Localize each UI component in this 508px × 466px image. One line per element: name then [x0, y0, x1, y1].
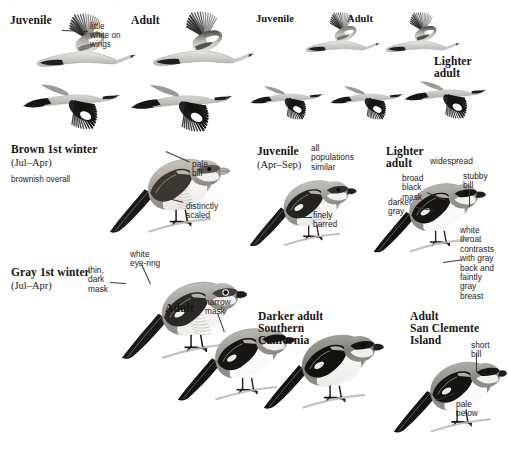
flight-bird-juvenile-lower-left [22, 76, 127, 133]
annotation-darker-gray: darker gray [388, 198, 412, 217]
header-adult: Adult [347, 13, 373, 24]
header-lighter-adult: Lighter adult [386, 145, 424, 169]
header-juvenile: Juvenile [256, 13, 294, 24]
header-adult-san-clemente-island: Adult San Clemente Island [410, 310, 479, 347]
annotation-thin-dark-mask: thin, dark mask [88, 266, 108, 294]
annotation-widespread: widespread [430, 157, 473, 166]
leader-line-short-bill [476, 354, 477, 372]
leader-line-thin-dark-mask [110, 282, 126, 284]
header-darker-adult-southern-california: Darker adult Southern California [258, 310, 323, 347]
sub-apr-sep: (Apr–Sep) [257, 159, 301, 170]
header-adult: Adult [131, 14, 160, 26]
header-juvenile: Juvenile [257, 145, 299, 157]
annotation-white-eye-ring: white eye-ring [130, 250, 160, 269]
annotation-distinctly-scaled: distinctly scaled [186, 202, 218, 221]
flight-bird-lighter-adult-lower-right [404, 74, 492, 122]
header-brown-1st-winter: Brown 1st winter [11, 143, 97, 155]
clipped-text-row: . . . . . [6, 0, 116, 7]
header-adult: Adult [165, 302, 194, 314]
flight-bird-adult-lower-right [330, 80, 408, 122]
flight-bird-adult-upper-left [148, 14, 254, 79]
annotation-pale-below: pale below [456, 400, 478, 419]
header-lighter-adult: Lighter adult [434, 55, 472, 79]
annotation-little-white-on-wings: little white on wings [90, 22, 121, 50]
sub-jul-apr: (Jul–Apr) [11, 157, 52, 168]
annotation-white-throat-contrasts-with-gray-b: white throat contrasts with gray back an… [460, 226, 501, 301]
annotation-all-populations-similar: all populations similar [311, 144, 354, 172]
annotation-brownish-overall: brownish overall [11, 175, 70, 184]
leader-line-stubby-bill [469, 189, 470, 207]
perched-bird-juvenile [248, 160, 356, 255]
annotation-stubby-bill: stubby bill [463, 172, 488, 191]
sub-jul-apr: (Jul–Apr) [11, 280, 52, 291]
perched-bird-adult-san-clemente-island [392, 340, 508, 442]
annotation-short-bill: short bill [471, 341, 490, 360]
annotation-pale-bill: pale bill [192, 160, 208, 179]
flight-bird-juvenile-lower-right [250, 80, 328, 122]
header-gray-1st-winter: Gray 1st winter [11, 266, 90, 278]
header-juvenile: Juvenile [10, 14, 52, 26]
flight-bird-adult-lower-left [130, 76, 240, 135]
annotation-finely-barred: finely barred [313, 211, 337, 230]
leader-line-finely-barred [298, 217, 312, 218]
